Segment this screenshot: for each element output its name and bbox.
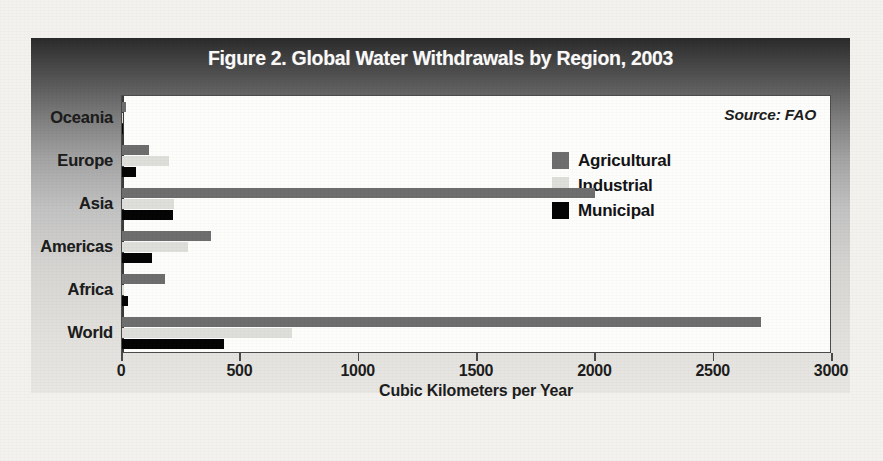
category-label-oceania: Oceania xyxy=(50,107,113,126)
bar-oceania-agricultural xyxy=(122,102,126,112)
x-tick-1000 xyxy=(358,353,360,361)
x-tick-label-2500: 2500 xyxy=(695,362,729,380)
x-tick-2000 xyxy=(594,353,596,361)
bar-americas-municipal xyxy=(122,253,152,263)
x-tick-label-2000: 2000 xyxy=(577,362,611,380)
category-label-world: World xyxy=(68,322,113,341)
category-label-asia: Asia xyxy=(79,193,113,212)
bar-group-world xyxy=(122,317,830,349)
figure-title: Figure 2. Global Water Withdrawals by Re… xyxy=(31,47,850,70)
bar-asia-industrial xyxy=(122,199,174,209)
category-axis-labels: OceaniaEuropeAsiaAmericasAfricaWorld xyxy=(31,95,117,353)
category-label-europe: Europe xyxy=(57,150,113,169)
figure-panel: Figure 2. Global Water Withdrawals by Re… xyxy=(31,38,850,393)
bar-europe-industrial xyxy=(122,156,169,166)
bar-oceania-industrial xyxy=(122,113,123,123)
bar-oceania-municipal xyxy=(122,124,123,134)
x-tick-label-3000: 3000 xyxy=(814,362,848,380)
bar-asia-agricultural xyxy=(122,188,595,198)
bar-world-municipal xyxy=(122,339,224,349)
bar-europe-agricultural xyxy=(122,145,149,155)
bar-group-africa xyxy=(122,274,830,306)
x-tick-1500 xyxy=(476,353,478,361)
bar-group-asia xyxy=(122,188,830,220)
x-tick-2500 xyxy=(713,353,715,361)
category-label-americas: Americas xyxy=(40,236,113,255)
x-tick-500 xyxy=(239,353,241,361)
y-axis-line xyxy=(122,96,124,352)
bar-africa-agricultural xyxy=(122,274,165,284)
bar-africa-industrial xyxy=(122,285,124,295)
bar-world-industrial xyxy=(122,328,292,338)
plot-area: Source: FAO AgriculturalIndustrialMunici… xyxy=(121,95,831,353)
bar-americas-industrial xyxy=(122,242,188,252)
bar-group-americas xyxy=(122,231,830,263)
x-tick-label-0: 0 xyxy=(117,362,126,380)
bar-group-oceania xyxy=(122,102,830,134)
bar-world-agricultural xyxy=(122,317,761,327)
x-tick-label-1000: 1000 xyxy=(340,362,374,380)
x-tick-label-1500: 1500 xyxy=(459,362,493,380)
scanned-page: Figure 2. Global Water Withdrawals by Re… xyxy=(0,0,883,461)
bar-americas-agricultural xyxy=(122,231,211,241)
x-tick-label-500: 500 xyxy=(226,362,252,380)
category-label-africa: Africa xyxy=(67,279,113,298)
bar-asia-municipal xyxy=(122,210,173,220)
x-tick-3000 xyxy=(831,353,833,361)
x-tick-0 xyxy=(121,353,123,361)
bar-group-europe xyxy=(122,145,830,177)
x-axis-title: Cubic Kilometers per Year xyxy=(121,382,831,400)
bar-europe-municipal xyxy=(122,167,136,177)
bar-africa-municipal xyxy=(122,296,128,306)
